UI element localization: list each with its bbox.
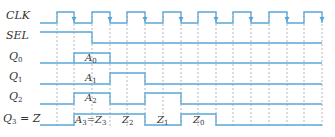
annotation-a3-z3: A3=Z3 xyxy=(74,114,107,127)
arrow-down-icon xyxy=(143,17,148,22)
q1-waveform xyxy=(40,73,322,84)
grid-lines xyxy=(57,12,322,126)
arrow-down-icon xyxy=(179,17,184,22)
annotation-a1: A1 xyxy=(84,72,97,85)
arrow-down-icon xyxy=(108,17,113,22)
arrow-down-icon xyxy=(249,17,254,22)
label-sel: SEL xyxy=(6,29,29,42)
label-q0: Q0 xyxy=(9,50,23,64)
timing-diagram: CLK SEL Q0 Q1 Q2 Q3 = Z A0 A1 A2 A3=Z3 Z… xyxy=(0,0,335,137)
timing-diagram-canvas: CLK SEL Q0 Q1 Q2 Q3 = Z A0 A1 A2 A3=Z3 Z… xyxy=(0,0,335,137)
label-clk: CLK xyxy=(6,9,31,22)
label-q1: Q1 xyxy=(9,70,23,84)
annotation-a2: A2 xyxy=(84,92,97,105)
label-q2: Q2 xyxy=(9,90,23,104)
label-q3-z: Q3 = Z xyxy=(3,112,41,126)
arrow-down-icon xyxy=(320,17,325,22)
q2-waveform xyxy=(40,93,322,104)
arrow-down-icon xyxy=(285,17,290,22)
arrow-down-icon xyxy=(214,17,219,22)
arrow-down-icon xyxy=(72,17,77,22)
